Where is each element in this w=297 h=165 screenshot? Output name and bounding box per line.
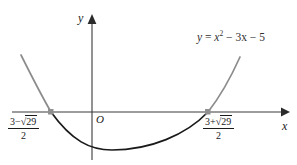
equation-constant-term: − 5 (250, 31, 265, 43)
equation-equals: = (205, 31, 212, 43)
equation-linear-term: − 3x (226, 31, 247, 43)
origin-label: O (96, 114, 104, 125)
equation-exponent: 2 (219, 29, 223, 38)
right-sqrt: √29 (216, 116, 233, 127)
x-axis-arrowhead (281, 108, 290, 117)
curve-equation-label: y = x2 − 3x − 5 (197, 30, 265, 43)
parabola-figure: y x O y = x2 − 3x − 5 3−√29 2 3+√29 2 (0, 0, 297, 165)
fraction-right-denominator: 2 (203, 129, 234, 141)
y-axis-label: y (78, 12, 83, 24)
left-sqrt: √29 (21, 116, 38, 127)
curve-left-branch (21, 55, 51, 112)
root-marker-left (48, 109, 54, 115)
fraction-left: 3−√29 2 (8, 116, 39, 141)
fraction-right: 3+√29 2 (203, 116, 234, 141)
curve-right-branch (208, 57, 240, 112)
fraction-right-numerator: 3+√29 (203, 116, 234, 129)
fraction-left-denominator: 2 (8, 129, 39, 141)
root-marker-right (205, 109, 211, 115)
left-radicand: 29 (25, 115, 37, 127)
y-axis-arrowhead (88, 14, 97, 24)
root-label-right: 3+√29 2 (203, 116, 234, 141)
root-label-left: 3−√29 2 (8, 116, 39, 141)
curve-below-axis (51, 112, 208, 150)
x-axis-label: x (282, 120, 287, 132)
right-radicand: 29 (220, 115, 232, 127)
equation-lhs: y (197, 31, 202, 43)
fraction-left-numerator: 3−√29 (8, 116, 39, 129)
plot-canvas (0, 0, 297, 165)
